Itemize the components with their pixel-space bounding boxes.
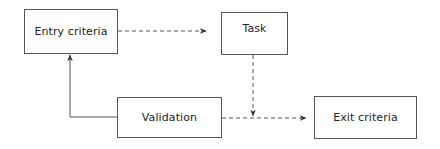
node-label: Task	[242, 22, 266, 35]
node-label: Entry criteria	[34, 25, 107, 38]
diagram-canvas: Entry criteria Task Validation Exit crit…	[0, 0, 440, 149]
node-label: Exit criteria	[333, 111, 398, 124]
node-entry-criteria: Entry criteria	[24, 9, 118, 54]
node-validation: Validation	[117, 97, 222, 138]
node-exit-criteria: Exit criteria	[314, 96, 417, 139]
node-label: Validation	[142, 111, 197, 124]
edge-validation-to-entry	[70, 55, 117, 117]
node-task: Task	[221, 12, 288, 55]
